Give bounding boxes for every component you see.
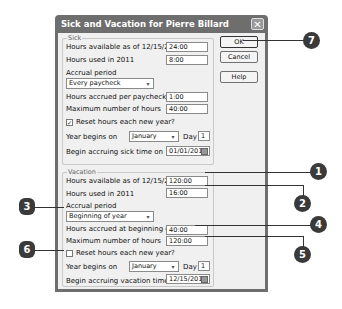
chevron-down-icon: ▾ <box>144 213 152 220</box>
callout-7-badge: 7 <box>303 32 320 49</box>
vacation-group-label: Vacation <box>67 168 97 176</box>
title-bar: Sick and Vacation for Pierre Billard ✕ <box>58 15 265 33</box>
sick-group-label: Sick <box>67 34 82 42</box>
sick-max-hours-label: Maximum number of hours <box>66 105 161 113</box>
callout-2-badge: 2 <box>294 195 311 212</box>
chevron-down-icon: ▾ <box>169 133 177 140</box>
sick-accrual-period-value: Every paycheck <box>69 79 121 87</box>
vacation-hours-available-field[interactable]: 120:00 <box>166 176 208 186</box>
callout-6-badge: 6 <box>19 241 35 258</box>
vacation-hours-accrued-field[interactable]: 40:00 <box>166 225 208 235</box>
sick-hours-available-field[interactable]: 24:00 <box>166 42 208 52</box>
dialog-body: Sick Hours available as of 12/15/2011 24… <box>58 33 265 289</box>
vacation-day-label: Day <box>183 263 197 271</box>
callout-1-badge: 1 <box>310 163 327 180</box>
vacation-begin-accruing-label: Begin accruing vacation time on <box>66 277 179 285</box>
chevron-down-icon: ▾ <box>144 80 152 87</box>
vacation-reset-checkbox[interactable] <box>66 250 73 257</box>
vacation-accrual-period-value: Beginning of year <box>69 212 127 220</box>
sick-hours-available-label: Hours available as of 12/15/2011 <box>66 43 182 51</box>
sick-hours-accrued-field[interactable]: 1:00 <box>166 92 208 102</box>
calendar-icon[interactable] <box>201 148 208 155</box>
callout-4-badge: 4 <box>310 216 327 233</box>
vacation-year-begins-month: January <box>132 262 157 270</box>
vacation-year-begins-month-dropdown[interactable]: January ▾ <box>129 261 179 272</box>
callout-5-badge: 5 <box>294 246 311 263</box>
sick-day-field[interactable]: 1 <box>198 131 210 141</box>
chevron-down-icon: ▾ <box>169 263 177 270</box>
calendar-icon[interactable] <box>201 276 208 283</box>
vacation-max-hours-field[interactable]: 120:00 <box>166 236 208 246</box>
vacation-accrual-period-label: Accrual period <box>66 202 116 210</box>
vacation-year-begins-label: Year begins on <box>66 263 117 271</box>
callout-7-line <box>243 40 305 41</box>
vacation-day-field[interactable]: 1 <box>198 261 210 271</box>
sick-hours-accrued-label: Hours accrued per paycheck <box>66 93 166 101</box>
sick-reset-label: Reset hours each new year? <box>76 118 175 126</box>
vacation-hours-used-field[interactable]: 16:00 <box>166 188 208 198</box>
dialog-title: Sick and Vacation for Pierre Billard <box>61 19 229 29</box>
sick-accrual-period-label: Accrual period <box>66 69 116 77</box>
vacation-accrual-period-dropdown[interactable]: Beginning of year ▾ <box>66 211 154 222</box>
sick-begin-accruing-label: Begin accruing sick time on <box>66 148 163 156</box>
ok-button[interactable]: OK <box>220 36 258 48</box>
sick-hours-used-label: Hours used in 2011 <box>66 56 134 64</box>
sick-day-label: Day <box>183 133 197 141</box>
callout-2-line <box>205 185 303 186</box>
sick-year-begins-month: January <box>132 132 157 140</box>
vacation-hours-used-label: Hours used in 2011 <box>66 190 134 198</box>
sick-hours-used-field[interactable]: 8:00 <box>166 55 208 65</box>
callout-4-line <box>195 225 315 226</box>
vacation-hours-available-label: Hours available as of 12/15/2011 <box>66 177 182 185</box>
vacation-max-hours-label: Maximum number of hours <box>66 237 161 245</box>
sick-year-begins-month-dropdown[interactable]: January ▾ <box>129 131 179 142</box>
callout-1-line <box>205 172 313 173</box>
vacation-begin-accruing-date-field[interactable]: 12/15/2011 <box>166 274 210 284</box>
sick-accrual-period-dropdown[interactable]: Every paycheck ▾ <box>66 78 154 89</box>
help-button[interactable]: Help <box>220 71 258 83</box>
sick-group: Sick Hours available as of 12/15/2011 24… <box>62 38 214 165</box>
vacation-reset-label: Reset hours each new year? <box>76 249 175 257</box>
sick-max-hours-field[interactable]: 40:00 <box>166 104 208 114</box>
sick-year-begins-label: Year begins on <box>66 133 117 141</box>
sick-reset-checkbox[interactable]: ✓ <box>66 119 73 126</box>
callout-3-line <box>34 207 64 208</box>
callout-3-badge: 3 <box>19 198 35 215</box>
callout-5-line <box>205 236 303 237</box>
sick-begin-accruing-date-field[interactable]: 01/01/2011 <box>166 146 210 156</box>
callout-6-line <box>34 250 64 251</box>
close-icon[interactable]: ✕ <box>251 18 264 30</box>
vacation-group: Vacation Hours available as of 12/15/201… <box>62 172 214 287</box>
cancel-button[interactable]: Cancel <box>220 51 258 63</box>
sick-vacation-dialog: Sick and Vacation for Pierre Billard ✕ S… <box>55 15 268 292</box>
